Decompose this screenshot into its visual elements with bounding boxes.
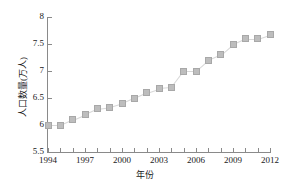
x-axis-tick-label: 2000 — [105, 155, 139, 165]
data-point-marker — [131, 95, 138, 102]
data-point-marker — [45, 122, 52, 129]
data-point-marker — [193, 68, 200, 75]
population-line-chart: 5.566.577.58 199419972000200320062009201… — [0, 0, 290, 193]
x-axis-tick-label: 1994 — [31, 155, 65, 165]
y-axis-title: 人口数量(万人) — [18, 32, 28, 142]
data-point-marker — [180, 68, 187, 75]
data-point-marker — [94, 105, 101, 112]
data-point-marker — [254, 35, 261, 42]
x-axis-tick-label: 2012 — [253, 155, 287, 165]
data-point-marker — [230, 41, 237, 48]
data-point-marker — [119, 100, 126, 107]
x-axis-tick-label: 1997 — [68, 155, 102, 165]
x-axis-title: 年份 — [0, 170, 290, 180]
y-axis-tick-label: 8 — [0, 12, 44, 21]
x-axis-tick-label: 2009 — [216, 155, 250, 165]
data-point-marker — [82, 111, 89, 118]
data-point-marker — [156, 85, 163, 92]
data-point-marker — [267, 31, 274, 38]
data-point-marker — [143, 89, 150, 96]
data-point-marker — [205, 57, 212, 64]
data-point-marker — [106, 104, 113, 111]
x-axis-tick — [270, 148, 271, 153]
data-point-marker — [69, 116, 76, 123]
x-axis-tick-label: 2006 — [179, 155, 213, 165]
data-point-marker — [168, 84, 175, 91]
data-point-marker — [217, 51, 224, 58]
data-point-marker — [57, 122, 64, 129]
data-point-marker — [242, 35, 249, 42]
x-axis-tick-label: 2003 — [142, 155, 176, 165]
y-axis-title-holder: 人口数量(万人) — [2, 30, 16, 135]
